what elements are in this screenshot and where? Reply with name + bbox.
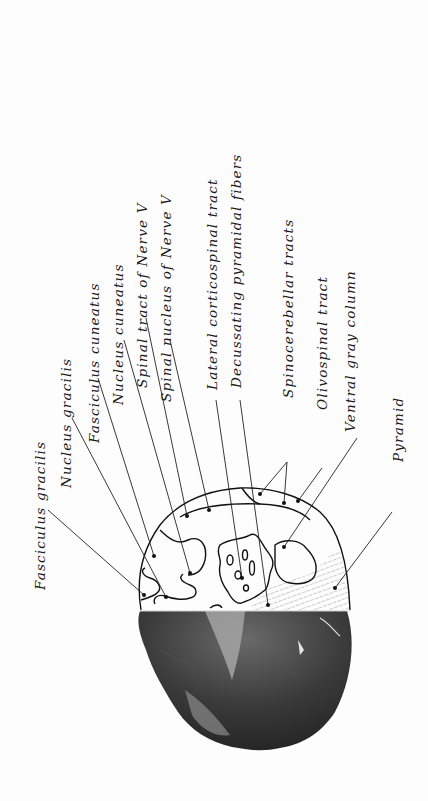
stained-section-photo [138,611,351,750]
medulla-diagram [0,0,428,801]
